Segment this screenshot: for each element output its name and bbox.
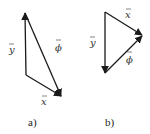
label-y-b: y bbox=[89, 37, 96, 48]
label-phi-a: ϕ bbox=[55, 42, 62, 53]
label-x-b: x bbox=[125, 9, 131, 20]
diagram-b: x y ϕ b) bbox=[89, 9, 142, 129]
vector-phi-b bbox=[105, 36, 142, 73]
caption-b: b) bbox=[105, 116, 115, 129]
label-y-a: y bbox=[8, 44, 15, 55]
vector-phi-a bbox=[25, 13, 61, 96]
vector-x-b bbox=[105, 12, 142, 35]
label-x-a: x bbox=[41, 96, 47, 107]
caption-a: a) bbox=[28, 116, 37, 129]
diagram-a: y ϕ x a) bbox=[8, 13, 62, 129]
vector-y-a bbox=[25, 13, 26, 75]
vector-diagrams: y ϕ x a) x y ϕ b) bbox=[0, 0, 150, 134]
label-phi-b: ϕ bbox=[126, 54, 133, 65]
